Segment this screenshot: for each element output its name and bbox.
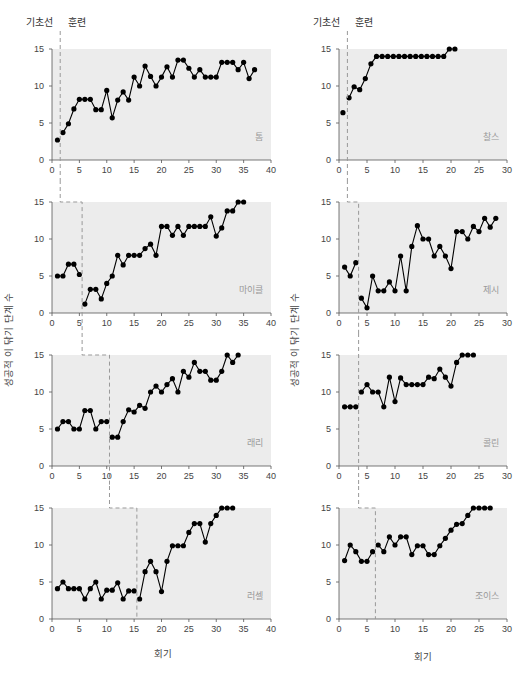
data-point bbox=[426, 552, 431, 557]
data-point bbox=[432, 552, 437, 557]
data-point bbox=[82, 302, 87, 307]
data-point bbox=[415, 223, 420, 228]
training-label-right: 훈련 bbox=[355, 16, 373, 28]
data-point bbox=[460, 352, 465, 357]
data-point bbox=[214, 75, 219, 80]
data-point bbox=[348, 542, 353, 547]
y-tick-label: 0 bbox=[39, 614, 44, 624]
data-point bbox=[225, 60, 230, 65]
data-point bbox=[420, 382, 425, 387]
data-point bbox=[55, 426, 60, 431]
x-tick-label: 20 bbox=[446, 624, 456, 634]
data-point bbox=[387, 375, 392, 380]
data-point bbox=[437, 244, 442, 249]
data-point bbox=[93, 287, 98, 292]
panel-6: 051015051015202530제시 bbox=[321, 197, 512, 328]
x-tick-label: 20 bbox=[156, 624, 166, 634]
data-point bbox=[175, 58, 180, 63]
data-point bbox=[208, 214, 213, 219]
data-point bbox=[404, 288, 409, 293]
x-tick-label: 30 bbox=[211, 471, 221, 481]
y-tick-label: 0 bbox=[326, 308, 331, 318]
data-point bbox=[236, 352, 241, 357]
data-point bbox=[121, 262, 126, 267]
data-point bbox=[342, 558, 347, 563]
x-tick-label: 40 bbox=[266, 165, 276, 175]
y-axis-label-left: 성공적 이 닦기 단계 수 bbox=[3, 293, 14, 386]
data-point bbox=[409, 244, 414, 249]
data-point bbox=[60, 130, 65, 135]
x-tick-label: 30 bbox=[211, 165, 221, 175]
data-point bbox=[476, 229, 481, 234]
data-point bbox=[392, 399, 397, 404]
panel-5: 051015051015202530찰스 bbox=[321, 44, 512, 175]
data-point bbox=[153, 569, 158, 574]
x-tick-label: 10 bbox=[390, 318, 400, 328]
data-point bbox=[175, 543, 180, 548]
data-point bbox=[60, 419, 65, 424]
data-point bbox=[374, 54, 379, 59]
panel-background bbox=[339, 202, 507, 313]
data-point bbox=[402, 54, 407, 59]
panel-background bbox=[339, 355, 507, 466]
data-point bbox=[115, 580, 120, 585]
data-point bbox=[186, 375, 191, 380]
data-point bbox=[370, 549, 375, 554]
data-point bbox=[159, 589, 164, 594]
data-point bbox=[252, 67, 257, 72]
data-point bbox=[352, 84, 357, 89]
x-tick-label: 35 bbox=[239, 165, 249, 175]
data-point bbox=[398, 375, 403, 380]
data-point bbox=[342, 265, 347, 270]
x-tick-label: 30 bbox=[211, 624, 221, 634]
data-point bbox=[381, 404, 386, 409]
data-point bbox=[437, 543, 442, 548]
data-point bbox=[132, 253, 137, 258]
panel-background bbox=[52, 508, 271, 619]
data-point bbox=[82, 97, 87, 102]
data-point bbox=[387, 279, 392, 284]
panel-8: 051015051015202530조이스 bbox=[321, 503, 512, 634]
data-point bbox=[192, 75, 197, 80]
x-tick-label: 10 bbox=[102, 624, 112, 634]
x-tick-label: 5 bbox=[77, 318, 82, 328]
data-point bbox=[219, 225, 224, 230]
data-point bbox=[225, 352, 230, 357]
data-point bbox=[66, 121, 71, 126]
data-point bbox=[186, 224, 191, 229]
data-point bbox=[413, 54, 418, 59]
data-point bbox=[142, 63, 147, 68]
data-point bbox=[164, 224, 169, 229]
data-point bbox=[203, 539, 208, 544]
panel-2: 0510150510152025303540마이클 bbox=[34, 197, 276, 328]
data-point bbox=[364, 305, 369, 310]
data-point bbox=[153, 253, 158, 258]
data-point bbox=[420, 236, 425, 241]
data-point bbox=[208, 378, 213, 383]
panel-3: 0510150510152025303540래리 bbox=[34, 350, 276, 481]
data-point bbox=[404, 382, 409, 387]
data-point bbox=[186, 66, 191, 71]
data-point bbox=[353, 260, 358, 265]
x-tick-label: 30 bbox=[211, 318, 221, 328]
data-point bbox=[448, 383, 453, 388]
data-point bbox=[126, 97, 131, 102]
data-point bbox=[359, 296, 364, 301]
data-point bbox=[454, 229, 459, 234]
y-tick-label: 0 bbox=[39, 155, 44, 165]
data-point bbox=[436, 54, 441, 59]
data-point bbox=[353, 404, 358, 409]
data-point bbox=[230, 360, 235, 365]
x-tick-label: 20 bbox=[446, 318, 456, 328]
data-point bbox=[398, 253, 403, 258]
data-point bbox=[170, 376, 175, 381]
data-point bbox=[482, 505, 487, 510]
data-point bbox=[104, 281, 109, 286]
data-point bbox=[126, 588, 131, 593]
data-point bbox=[77, 426, 82, 431]
x-tick-label: 5 bbox=[364, 624, 369, 634]
data-point bbox=[460, 521, 465, 526]
data-point bbox=[241, 60, 246, 65]
baseline-label-left: 기초선 bbox=[26, 17, 53, 28]
data-point bbox=[148, 242, 153, 247]
